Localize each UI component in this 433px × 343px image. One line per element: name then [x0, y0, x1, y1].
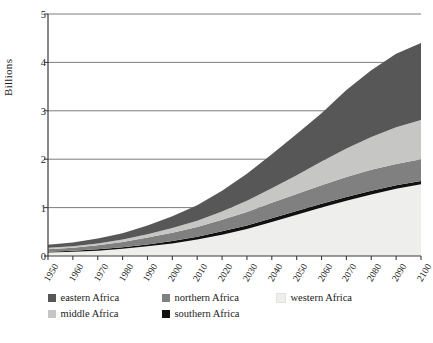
- legend-item-middle-africa[interactable]: middle Africa: [48, 306, 151, 322]
- legend-label: southern Africa: [175, 306, 240, 322]
- plot-area: Billions 012345: [0, 0, 429, 272]
- legend-swatch-icon: [162, 294, 170, 302]
- legend-item-western-africa[interactable]: western Africa: [276, 290, 379, 306]
- legend-row-1: eastern Africa northern Africa western A…: [44, 290, 386, 306]
- legend-swatch-icon: [162, 310, 170, 318]
- legend-label: middle Africa: [61, 306, 119, 322]
- legend-item-northern-africa[interactable]: northern Africa: [162, 290, 265, 306]
- legend-item-spacer: [276, 306, 379, 322]
- chart-canvas: [0, 0, 429, 272]
- legend-item-eastern-africa[interactable]: eastern Africa: [48, 290, 151, 306]
- legend-item-southern-africa[interactable]: southern Africa: [162, 306, 265, 322]
- legend-swatch-icon: [48, 310, 56, 318]
- legend-label: northern Africa: [175, 290, 239, 306]
- legend-label: western Africa: [291, 290, 353, 306]
- legend-row-2: middle Africa southern Africa: [44, 306, 386, 322]
- legend-label: eastern Africa: [61, 290, 120, 306]
- chart-legend: eastern Africa northern Africa western A…: [0, 290, 429, 323]
- legend-swatch-icon: [276, 293, 286, 303]
- legend-swatch-icon: [48, 294, 56, 302]
